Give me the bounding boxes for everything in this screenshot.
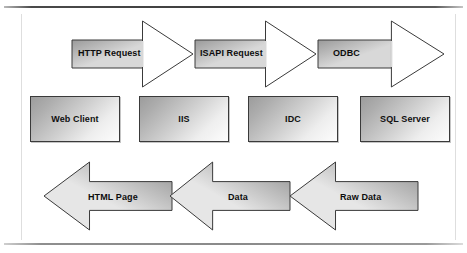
node-label-web-client: Web Client [51, 114, 98, 124]
arrow-head-http-request [143, 21, 194, 87]
arrow-raw-data [288, 160, 420, 232]
arrow-isapi-request [193, 19, 318, 89]
arrow-head-odbc [391, 21, 444, 87]
arrow-shaft-http-request [72, 40, 148, 68]
node-box-sql-server: SQL Server [360, 96, 450, 142]
arrow-shaft-odbc [318, 40, 397, 68]
node-box-iis: IIS [139, 96, 229, 142]
node-box-web-client: Web Client [30, 96, 120, 142]
figure-root: Web ClientIISIDCSQL ServerHTTP RequestIS… [0, 0, 467, 253]
arrow-head-isapi-request [266, 21, 317, 87]
arrow-odbc [316, 19, 446, 89]
arrow-http-request [70, 19, 195, 89]
node-label-idc: IDC [285, 114, 301, 124]
arrow-html-page [42, 160, 174, 232]
arrow-shaft-isapi-request [195, 40, 271, 68]
arrow-data [168, 160, 292, 232]
arrow-body-html-page [44, 162, 172, 230]
node-box-idc: IDC [248, 96, 338, 142]
architecture-diagram: Web ClientIISIDCSQL ServerHTTP RequestIS… [0, 0, 467, 253]
node-label-iis: IIS [178, 114, 189, 124]
arrow-body-raw-data [290, 162, 418, 230]
node-label-sql-server: SQL Server [380, 114, 430, 124]
arrow-body-data [170, 162, 290, 230]
